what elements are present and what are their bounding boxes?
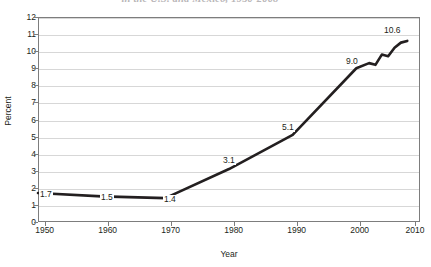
y-tick-label: 10	[10, 47, 36, 56]
gridline	[39, 69, 419, 70]
y-tick-label: 9	[10, 64, 36, 73]
y-tick-mark	[34, 102, 38, 103]
y-tick-mark	[34, 34, 38, 35]
y-tick-label: 3	[10, 167, 36, 176]
gridline	[39, 206, 419, 207]
x-tick-label: 1950	[25, 225, 65, 235]
gridline	[39, 52, 419, 53]
y-tick-mark	[34, 51, 38, 52]
y-tick-label: 1	[10, 201, 36, 210]
data-label-1970: 1.4	[163, 195, 177, 204]
y-tick-label: 5	[10, 133, 36, 142]
y-tick-mark	[34, 17, 38, 18]
x-tick-label: 1960	[88, 225, 128, 235]
y-tick-label: 11	[10, 30, 36, 39]
y-tick-mark	[34, 85, 38, 86]
data-label-1990: 5.1	[281, 123, 295, 132]
gridline	[39, 103, 419, 104]
y-tick-mark	[34, 154, 38, 155]
line-chart: in the U.S. and Mexico, 1950-2008 Percen…	[0, 0, 431, 267]
y-tick-mark	[34, 68, 38, 69]
gridline	[39, 189, 419, 190]
gridline	[39, 138, 419, 139]
y-tick-label: 4	[10, 150, 36, 159]
y-tick-mark	[34, 171, 38, 172]
x-tick-label: 1990	[277, 225, 317, 235]
data-label-1960: 1.5	[100, 193, 114, 202]
gridline	[39, 86, 419, 87]
y-tick-mark	[34, 188, 38, 189]
data-label-1980: 3.1	[222, 156, 236, 165]
y-tick-mark	[34, 222, 38, 223]
x-axis-title: Year	[38, 249, 420, 259]
y-tick-label: 8	[10, 81, 36, 90]
y-tick-mark	[34, 205, 38, 206]
data-label-2008: 10.6	[383, 26, 402, 35]
x-tick-label: 1970	[151, 225, 191, 235]
gridline	[39, 121, 419, 122]
gridline	[39, 18, 419, 19]
y-tick-mark	[34, 137, 38, 138]
gridline	[39, 172, 419, 173]
x-tick-label: 1980	[214, 225, 254, 235]
x-tick-label: 2010	[395, 225, 431, 235]
y-tick-label: 12	[10, 13, 36, 22]
data-label-2000: 9.0	[345, 57, 359, 66]
data-label-1950: 1.7	[39, 190, 53, 199]
y-tick-label: 2	[10, 184, 36, 193]
y-tick-label: 7	[10, 98, 36, 107]
x-tick-label: 2000	[340, 225, 380, 235]
y-tick-mark	[34, 120, 38, 121]
plot-area	[38, 17, 420, 222]
chart-title: in the U.S. and Mexico, 1950-2008	[70, 0, 330, 3]
gridline	[39, 35, 419, 36]
y-tick-label: 6	[10, 116, 36, 125]
